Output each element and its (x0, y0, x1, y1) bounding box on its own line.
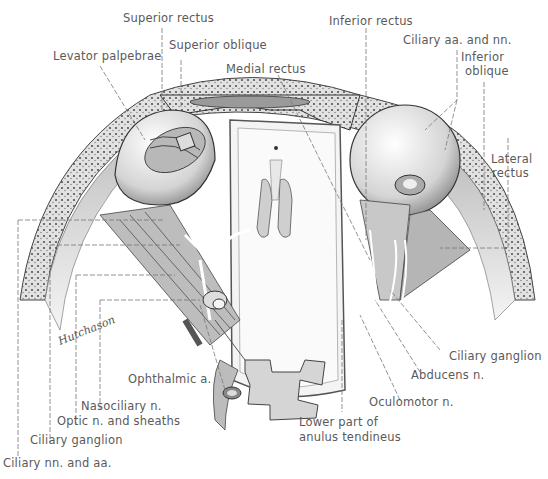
right-eyeball (350, 105, 470, 330)
label-superior-rectus: Superior rectus (123, 11, 214, 25)
label-optic-nerve: Optic n. and sheaths (57, 414, 180, 428)
label-inferior-oblique-line2: oblique (465, 64, 509, 78)
label-ciliary-nn-aa: Ciliary nn. and aa. (3, 456, 112, 470)
label-lateral-rectus-line2: rectus (492, 166, 529, 180)
label-nasociliary: Nasociliary n. (81, 399, 162, 413)
label-inferior-oblique-line1: Inferior (461, 50, 504, 64)
label-lateral-rectus-line1: Lateral (491, 152, 532, 166)
label-inferior-rectus: Inferior rectus (329, 14, 413, 28)
label-medial-rectus: Medial rectus (226, 62, 306, 76)
label-superior-oblique: Superior oblique (169, 38, 267, 52)
left-orbit-contents (100, 205, 250, 360)
label-ciliary-ganglion-left: Ciliary ganglion (30, 433, 123, 447)
label-abducens: Abducens n. (411, 368, 484, 382)
label-oculomotor: Oculomotor n. (369, 395, 454, 409)
label-lower-anulus-line1: Lower part of (299, 415, 378, 429)
label-levator-palpebrae: Levator palpebrae (53, 49, 162, 63)
label-ciliary-aa-nn: Ciliary aa. and nn. (403, 33, 512, 47)
artist-signature: Hutchason (55, 313, 117, 348)
label-lower-anulus-line2: anulus tendineus (299, 430, 401, 444)
label-ciliary-ganglion-right: Ciliary ganglion (449, 349, 542, 363)
label-ophthalmic-artery: Ophthalmic a. (128, 372, 211, 386)
